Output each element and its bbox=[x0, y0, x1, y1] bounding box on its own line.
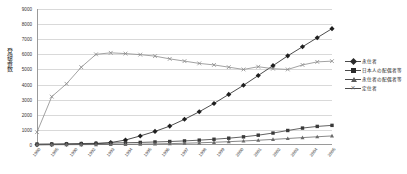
data-point bbox=[286, 129, 289, 132]
x-axis-ticks: 1980198519901992199319941995199619971998… bbox=[37, 146, 332, 172]
x-tick-label: 1997 bbox=[179, 147, 189, 158]
x-tick-label: 1985 bbox=[50, 147, 60, 158]
data-point bbox=[285, 53, 290, 58]
x-tick-label: 2004 bbox=[308, 147, 318, 158]
series-0 bbox=[34, 26, 334, 147]
x-tick-label: 2001 bbox=[253, 147, 263, 158]
data-point bbox=[329, 26, 334, 31]
legend-label: 日本人の配偶者等 bbox=[361, 68, 402, 74]
data-point bbox=[167, 124, 172, 129]
x-tick-label: 2003 bbox=[290, 147, 300, 158]
data-point bbox=[300, 44, 305, 49]
data-point bbox=[226, 92, 231, 97]
data-point bbox=[301, 126, 304, 129]
legend-marker-sq-icon bbox=[345, 66, 361, 75]
x-tick-label: 1996 bbox=[161, 147, 171, 158]
data-point bbox=[256, 73, 261, 78]
data-point bbox=[138, 133, 143, 138]
x-tick-label: 1990 bbox=[69, 147, 79, 158]
x-tick-label: 1994 bbox=[124, 147, 134, 158]
x-tick-label: 1993 bbox=[105, 147, 115, 158]
data-point bbox=[316, 125, 319, 128]
x-tick-label: 1992 bbox=[87, 147, 97, 158]
legend-item[interactable]: 永住者 bbox=[345, 57, 407, 66]
data-point bbox=[152, 129, 157, 134]
legend-item[interactable]: 永住者の配偶者等 bbox=[345, 75, 407, 84]
data-point bbox=[242, 135, 245, 138]
x-tick-label: 2002 bbox=[271, 147, 281, 158]
x-tick-label: 1998 bbox=[198, 147, 208, 158]
data-point bbox=[79, 65, 83, 69]
data-point bbox=[315, 35, 320, 40]
legend-item[interactable]: ✕定住者 bbox=[345, 84, 407, 93]
legend-item[interactable]: 日本人の配偶者等 bbox=[345, 66, 407, 75]
chart-container: 登録者数 01000200030004000500060007000800090… bbox=[0, 0, 407, 174]
legend-marker-tri-icon bbox=[345, 75, 361, 84]
legend-label: 永住者 bbox=[361, 59, 377, 65]
x-tick-label: 1995 bbox=[142, 147, 152, 158]
series-line bbox=[37, 29, 332, 145]
data-point bbox=[211, 101, 216, 106]
legend-label: 永住者の配偶者等 bbox=[361, 77, 402, 83]
legend-marker-dia-icon bbox=[345, 57, 361, 66]
x-tick-label: 2000 bbox=[234, 147, 244, 158]
data-point bbox=[227, 137, 230, 140]
data-point bbox=[197, 109, 202, 114]
legend-marker-xx-icon: ✕ bbox=[345, 84, 361, 93]
data-point bbox=[330, 124, 333, 127]
data-point bbox=[271, 131, 274, 134]
legend-label: 定住者 bbox=[361, 86, 377, 92]
x-tick-label: 1999 bbox=[216, 147, 226, 158]
data-point bbox=[65, 82, 69, 86]
data-point bbox=[182, 117, 187, 122]
chart-legend: 永住者日本人の配偶者等永住者の配偶者等✕定住者 bbox=[345, 57, 407, 93]
data-point bbox=[35, 130, 39, 134]
data-point bbox=[50, 95, 54, 99]
data-point bbox=[241, 83, 246, 88]
data-point bbox=[257, 133, 260, 136]
